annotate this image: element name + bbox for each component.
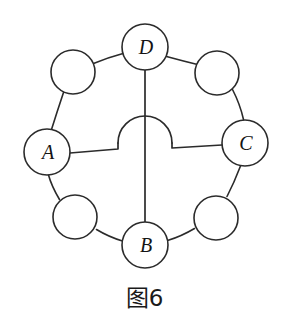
- ring-edge-NW-D: [94, 54, 124, 64]
- node-circle-bottom-left[interactable]: [53, 195, 97, 239]
- ring-graph-diagram: D C B A: [0, 0, 289, 290]
- figure-caption: 图6: [0, 283, 289, 313]
- node-top-right-unlabeled[interactable]: [195, 51, 239, 95]
- ring-edge-D-NE: [167, 57, 198, 65]
- node-label-A: A: [40, 141, 55, 163]
- node-A[interactable]: A: [24, 129, 70, 175]
- node-circle-top-right[interactable]: [195, 51, 239, 95]
- chord-A-C-group: [70, 116, 222, 153]
- node-C[interactable]: C: [222, 120, 268, 166]
- chord-A-C-right-segment: [172, 143, 222, 148]
- figure-container: D C B A: [0, 0, 289, 327]
- node-label-C: C: [239, 132, 253, 154]
- chord-A-C-left-segment: [70, 143, 118, 153]
- ring-edge-B-SW: [97, 230, 123, 242]
- ring-edge-SE-B: [168, 229, 195, 241]
- node-top-left-unlabeled[interactable]: [51, 50, 95, 94]
- nodes-group: D C B A: [24, 24, 268, 268]
- node-bottom-right-unlabeled[interactable]: [194, 196, 238, 240]
- ring-edge-SW-A: [49, 175, 60, 200]
- node-label-B: B: [140, 234, 152, 256]
- node-D[interactable]: D: [122, 24, 168, 70]
- ring-edge-NE-C: [233, 90, 244, 120]
- node-circle-top-left[interactable]: [51, 50, 95, 94]
- node-B[interactable]: B: [122, 222, 168, 268]
- node-circle-bottom-right[interactable]: [194, 196, 238, 240]
- node-bottom-left-unlabeled[interactable]: [53, 195, 97, 239]
- node-label-D: D: [138, 36, 154, 58]
- ring-edge-C-SE: [227, 166, 241, 197]
- ring-edge-A-NW: [52, 93, 64, 130]
